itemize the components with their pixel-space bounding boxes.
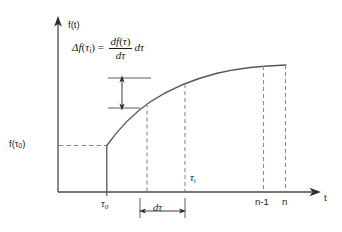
eq-num-close: ): [127, 35, 131, 47]
tau-i-sub: i: [194, 177, 196, 185]
delta-f-double-arrow: [119, 76, 124, 111]
dtau-measure-tau: τ: [158, 202, 162, 213]
y-value-label-base: f(τ: [9, 138, 19, 149]
x-tick-label-n: n: [282, 197, 287, 207]
x-axis-label: t: [324, 193, 327, 203]
x-tick-label-tau-i: τi: [190, 173, 196, 185]
eq-trailing-tau: τ: [140, 41, 144, 53]
y-value-label-close: ): [22, 138, 25, 149]
x-axis: [58, 188, 321, 196]
y-axis: [54, 16, 62, 192]
eq-lhs-close: ): [91, 41, 95, 53]
eq-denominator: dτ: [109, 48, 133, 62]
tau-zero-sub: 0: [105, 203, 109, 211]
x-tick-label-tau-zero: τ0: [101, 199, 108, 211]
eq-fraction: df(τ) dτ: [109, 36, 133, 62]
eq-numerator: df(τ): [109, 36, 133, 48]
eq-den-tau: τ: [121, 49, 125, 61]
increment-equation: Δf(τi) = df(τ) dτ dτ: [72, 36, 144, 62]
function-increment-diagram: [0, 0, 342, 232]
function-curve: [107, 65, 286, 146]
y-value-label: f(τ0): [9, 139, 25, 150]
y-axis-label: f(t): [68, 20, 80, 30]
x-tick-label-n-minus-1: n-1: [255, 197, 269, 207]
eq-equals: =: [98, 41, 104, 53]
dtau-measure-bracket: [139, 198, 186, 218]
dtau-measure-label: dτ: [153, 203, 162, 214]
